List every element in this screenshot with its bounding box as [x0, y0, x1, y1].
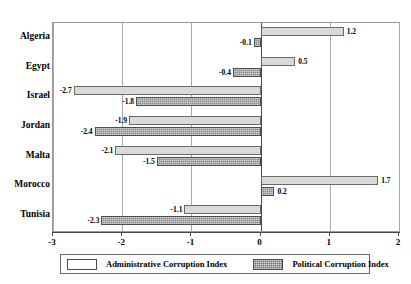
bar-value-algeria-political: -0.1 [235, 38, 252, 47]
category-label-israel: Israel [0, 90, 50, 100]
bar-morocco-political [261, 187, 275, 196]
bar-israel-political [136, 97, 261, 106]
legend-entry-administrative: Administrative Corruption Index [67, 255, 227, 273]
bar-value-israel-political: -1.8 [117, 97, 134, 106]
x-tick-mark [52, 232, 53, 236]
bar-malta-political [157, 157, 261, 166]
x-axis-line [52, 232, 400, 233]
bar-israel-admin [74, 86, 261, 95]
x-tick-mark [190, 232, 191, 236]
category-label-algeria: Algeria [0, 31, 50, 41]
bar-value-malta-admin: -2.1 [96, 146, 113, 155]
bar-chart: AlgeriaEgyptIsraelJordanMaltaMoroccoTuni… [0, 0, 411, 284]
bar-jordan-political [95, 127, 261, 136]
x-tick-label: 1 [327, 237, 332, 247]
category-label-tunisia: Tunisia [0, 209, 50, 219]
bar-value-egypt-admin: 0.5 [298, 57, 307, 66]
x-tick-mark [398, 232, 399, 236]
x-tick-label: -3 [48, 237, 56, 247]
chart-legend: Administrative Corruption Index Politica… [60, 254, 370, 274]
bar-group-israel: -2.7-1.8 [53, 82, 399, 112]
bar-value-tunisia-admin: -1.1 [165, 205, 182, 214]
x-tick-label: -1 [187, 237, 195, 247]
category-axis: AlgeriaEgyptIsraelJordanMaltaMoroccoTuni… [0, 22, 50, 232]
bar-value-tunisia-political: -2.3 [82, 216, 99, 225]
gridline [399, 23, 400, 231]
bar-group-algeria: 1.2-0.1 [53, 23, 399, 53]
bar-group-jordan: -1.9-2.4 [53, 112, 399, 142]
bar-tunisia-political [101, 216, 260, 225]
legend-label-political: Political Corruption Index [292, 259, 388, 269]
bar-jordan-admin [129, 116, 260, 125]
bar-morocco-admin [261, 176, 379, 185]
x-tick-mark [329, 232, 330, 236]
legend-label-administrative: Administrative Corruption Index [106, 259, 227, 269]
x-tick-mark [121, 232, 122, 236]
bar-group-egypt: 0.5-0.4 [53, 53, 399, 83]
bar-group-tunisia: -1.1-2.3 [53, 201, 399, 231]
bar-value-israel-admin: -2.7 [55, 86, 72, 95]
category-label-egypt: Egypt [0, 61, 50, 71]
bar-value-jordan-admin: -1.9 [110, 116, 127, 125]
category-label-morocco: Morocco [0, 179, 50, 189]
x-tick-label: -2 [117, 237, 125, 247]
x-tick-label: 2 [396, 237, 401, 247]
bar-value-morocco-political: 0.2 [277, 187, 286, 196]
x-axis: -3-2-1012 [52, 232, 400, 248]
bar-egypt-political [233, 68, 261, 77]
bar-group-malta: -2.1-1.5 [53, 142, 399, 172]
bar-tunisia-admin [184, 205, 260, 214]
bar-malta-admin [115, 146, 260, 155]
bar-egypt-admin [261, 57, 296, 66]
x-tick-mark [260, 232, 261, 236]
x-tick-label: 0 [257, 237, 262, 247]
bar-algeria-political [254, 38, 261, 47]
bar-value-morocco-admin: 1.7 [381, 176, 390, 185]
chart-title [0, 0, 411, 10]
category-label-jordan: Jordan [0, 120, 50, 130]
legend-entry-political: Political Corruption Index [253, 255, 388, 273]
bar-value-malta-political: -1.5 [138, 157, 155, 166]
bar-value-egypt-political: -0.4 [214, 68, 231, 77]
legend-swatch-political [253, 259, 283, 270]
bar-value-jordan-political: -2.4 [76, 127, 93, 136]
legend-swatch-administrative [67, 259, 97, 270]
bar-group-morocco: 1.70.2 [53, 172, 399, 202]
category-label-malta: Malta [0, 150, 50, 160]
bar-value-algeria-admin: 1.2 [347, 27, 356, 36]
plot-area: 1.2-0.10.5-0.4-2.7-1.8-1.9-2.4-2.1-1.51.… [52, 22, 400, 232]
bar-algeria-admin [261, 27, 344, 36]
